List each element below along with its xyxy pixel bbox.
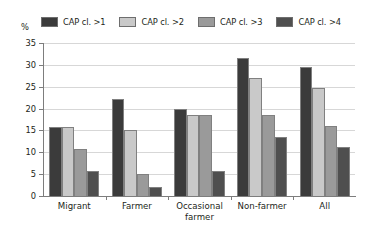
chart-legend: CAP cl. >1CAP cl. >2CAP cl. >3CAP cl. >4: [41, 17, 355, 27]
bar[interactable]: [237, 58, 250, 196]
bar[interactable]: [337, 147, 350, 196]
legend-label: CAP cl. >4: [298, 18, 340, 27]
y-axis-tick-label: 25: [20, 82, 36, 92]
bar[interactable]: [300, 67, 313, 196]
bar-group: [174, 43, 224, 196]
bar[interactable]: [112, 99, 125, 196]
y-axis-unit-label: %: [21, 22, 29, 32]
bar[interactable]: [87, 171, 100, 196]
legend-swatch-icon: [198, 17, 215, 27]
legend-item[interactable]: CAP cl. >4: [276, 17, 340, 27]
x-axis-line: [43, 196, 356, 197]
legend-item[interactable]: CAP cl. >1: [41, 17, 105, 27]
x-axis-category-label: All: [293, 201, 356, 212]
legend-label: CAP cl. >2: [141, 18, 183, 27]
legend-item[interactable]: CAP cl. >3: [198, 17, 262, 27]
x-axis-tick-mark: [106, 196, 107, 200]
x-axis-tick-mark: [168, 196, 169, 200]
y-axis-tick-label: 10: [20, 147, 36, 157]
bar-group: [237, 43, 287, 196]
bar[interactable]: [312, 88, 325, 196]
bar[interactable]: [174, 109, 187, 196]
bar-chart: CAP cl. >1CAP cl. >2CAP cl. >3CAP cl. >4…: [0, 0, 368, 242]
y-axis-tick-label: 5: [20, 169, 36, 179]
legend-item[interactable]: CAP cl. >2: [119, 17, 183, 27]
bar[interactable]: [187, 115, 200, 196]
bar[interactable]: [149, 187, 162, 196]
legend-label: CAP cl. >1: [63, 18, 105, 27]
legend-label: CAP cl. >3: [220, 18, 262, 27]
bar-group: [49, 43, 99, 196]
bar[interactable]: [137, 174, 150, 196]
bar-group: [300, 43, 350, 196]
bar-group: [112, 43, 162, 196]
x-axis-category-label: Farmer: [106, 201, 169, 212]
bar[interactable]: [212, 171, 225, 196]
bar[interactable]: [74, 149, 87, 196]
y-axis-tick-label: 35: [20, 38, 36, 48]
bar[interactable]: [62, 127, 75, 196]
bar[interactable]: [199, 115, 212, 196]
bar[interactable]: [249, 78, 262, 196]
bar[interactable]: [49, 127, 62, 196]
x-axis-category-label: Non-farmer: [231, 201, 294, 212]
legend-swatch-icon: [276, 17, 293, 27]
bar[interactable]: [262, 115, 275, 196]
bar[interactable]: [124, 130, 137, 196]
x-axis-category-label: Migrant: [43, 201, 106, 212]
x-axis-tick-mark: [293, 196, 294, 200]
legend-swatch-icon: [41, 17, 58, 27]
y-axis-tick-label: 30: [20, 60, 36, 70]
x-axis-category-label: Occasional farmer: [168, 201, 231, 222]
y-axis-tick-mark: [39, 196, 43, 197]
x-axis-tick-mark: [231, 196, 232, 200]
legend-swatch-icon: [119, 17, 136, 27]
y-axis-tick-label: 0: [20, 191, 36, 201]
y-axis-tick-label: 15: [20, 125, 36, 135]
bar-groups: [43, 43, 356, 196]
bar[interactable]: [275, 137, 288, 196]
y-axis-tick-label: 20: [20, 104, 36, 114]
bar[interactable]: [325, 126, 338, 196]
